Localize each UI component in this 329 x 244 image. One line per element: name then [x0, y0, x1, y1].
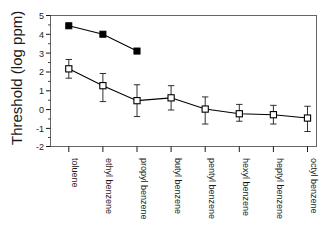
series-line: [69, 26, 137, 51]
y-tick-label-4: 4: [39, 30, 44, 40]
y-axis-label: Threshold (log ppm): [8, 11, 25, 145]
data-point-open[interactable]: [236, 111, 242, 117]
data-point-open[interactable]: [134, 98, 140, 104]
data-point-open[interactable]: [168, 95, 174, 101]
y-tick-label-neg2: -2: [36, 142, 44, 152]
x-tick-label-hexyl-benzene: hexyl benzene: [241, 158, 251, 216]
x-tick-label-ethyl-benzene: ethyl benzene: [104, 158, 114, 214]
x-tick-label-octyl-benzene: octyl benzene: [309, 158, 319, 214]
data-point-open[interactable]: [100, 83, 106, 89]
x-tick-label-propyl-benzene: propyl benzene: [139, 158, 149, 220]
data-point-open[interactable]: [66, 66, 72, 72]
series-line: [69, 69, 308, 118]
x-tick-label-pentyl-benzene: pentyl benzene: [207, 158, 217, 219]
series-open-square-series: [66, 59, 311, 131]
data-point-filled[interactable]: [134, 48, 140, 54]
data-series-layer: [66, 23, 311, 132]
data-point-filled[interactable]: [66, 23, 72, 29]
x-tick-label-toluene: toluene: [70, 158, 80, 188]
data-point-filled[interactable]: [100, 31, 106, 37]
y-tick-label-3: 3: [39, 49, 44, 59]
data-point-open[interactable]: [304, 115, 310, 121]
y-axis-ticks: [46, 16, 51, 147]
y-tick-label-5: 5: [39, 11, 44, 21]
data-point-open[interactable]: [270, 112, 276, 118]
data-point-open[interactable]: [202, 106, 208, 112]
x-tick-label-butyl-benzene: butyl benzene: [173, 158, 183, 214]
threshold-vs-alkylbenzene-chart: Threshold (log ppm) 5 4 3 2 1 0: [0, 0, 329, 244]
y-tick-label-neg1: -1: [36, 124, 44, 134]
x-tick-label-heptyl-benzene: heptyl benzene: [275, 158, 285, 219]
series-filled-square-series: [66, 23, 140, 54]
y-tick-label-1: 1: [39, 86, 44, 96]
y-tick-label-0: 0: [39, 105, 44, 115]
y-tick-label-2: 2: [39, 67, 44, 77]
x-axis-ticks: [69, 147, 308, 153]
chart-figure: Threshold (log ppm) 5 4 3 2 1 0: [0, 0, 329, 244]
plot-frame: [51, 16, 317, 147]
